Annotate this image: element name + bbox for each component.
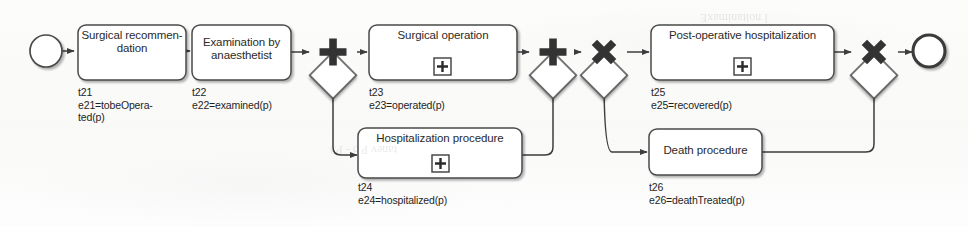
event-annotation-e25: e25=recovered(p) (651, 99, 732, 111)
task-label-t26: Death procedure (651, 144, 760, 157)
gateway-parallel-join[interactable] (530, 39, 577, 99)
event-annotation-e26: e26=deathTreated(p) (649, 194, 745, 206)
transition-id-t24: t24 (358, 181, 372, 193)
event-annotation-e23: e23=operated(p) (369, 99, 445, 111)
bpmn-diagram-canvas: tanev P p - P3 l noitanimaxE Surgical re… (0, 0, 968, 227)
gateway-exclusive-split[interactable] (581, 42, 628, 98)
event-annotation-e22: e22=examined(p) (192, 99, 272, 111)
gateway-diamond-g3 (581, 52, 628, 99)
task-label-t22: Examination by anaesthetist (193, 36, 290, 62)
event-annotation-e21: e21=tobeOpera- ted(p) (78, 99, 153, 124)
transition-id-t25: t25 (651, 86, 665, 98)
task-label-t24: Hospitalization procedure (360, 132, 520, 145)
subprocess-marker-t23 (434, 58, 451, 75)
subprocess-marker-t24 (432, 155, 449, 172)
event-annotation-e24: e24=hospitalized(p) (358, 194, 447, 206)
task-label-t23: Surgical operation (371, 29, 515, 42)
task-label-t21: Surgical recommen- dation (80, 29, 184, 55)
gateway-parallel-split[interactable] (310, 39, 357, 99)
start-event-circle (30, 35, 62, 67)
flow-t26-to-gateway4 (762, 80, 874, 152)
task-label-t25: Post-operative hospitalization (653, 29, 832, 42)
end-event-circle (913, 35, 945, 67)
gateway-diamond-g4 (851, 52, 898, 99)
transition-id-t22: t22 (192, 86, 206, 98)
transition-id-t21: t21 (78, 86, 92, 98)
transition-id-t23: t23 (369, 86, 383, 98)
subprocess-marker-t25 (734, 58, 751, 75)
gateway-exclusive-join[interactable] (851, 42, 898, 98)
transition-id-t26: t26 (649, 181, 663, 193)
